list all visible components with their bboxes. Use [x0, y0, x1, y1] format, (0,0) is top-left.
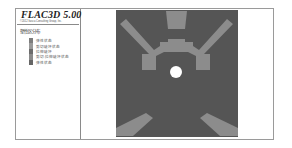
legend-label: 剪切破坏状态 [36, 44, 60, 49]
legend-heading: 塑性区分布 [20, 28, 40, 34]
legend-panel: FLAC3D 5.00 ©2012 Itasca Consulting Grou… [16, 9, 81, 139]
legend-label: 弹性状态 [36, 38, 52, 43]
zone-top-trapezoid [166, 11, 187, 29]
model-plot [116, 10, 238, 137]
plastic-zone-plot [116, 10, 238, 137]
app-title: FLAC3D 5.00 [21, 9, 82, 20]
tunnel-opening [170, 66, 182, 78]
legend-item: 剪切-拉伸破坏状态 [29, 54, 69, 59]
legend-label: 拉伸破坏 [36, 49, 52, 54]
app-copyright: ©2012 Itasca Consulting Group, Inc. [20, 20, 62, 23]
title-box: FLAC3D 5.00 ©2012 Itasca Consulting Grou… [17, 10, 79, 25]
figure-frame: FLAC3D 5.00 ©2012 Itasca Consulting Grou… [15, 8, 274, 140]
legend-label: 弹性状态 [36, 60, 52, 65]
legend-swatch [29, 60, 33, 65]
legend-label: 剪切-拉伸破坏状态 [36, 54, 69, 59]
legend-list: 弹性状态 剪切破坏状态 拉伸破坏 剪切-拉伸破坏状态 弹性状态 [29, 38, 69, 65]
legend-item: 弹性状态 [29, 60, 69, 65]
